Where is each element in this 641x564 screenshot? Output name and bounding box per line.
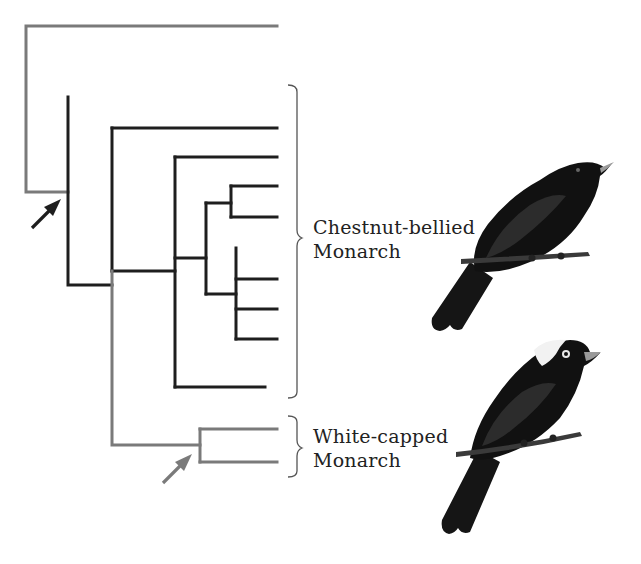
chestnut-bellied-clade-branches — [68, 97, 277, 387]
outgroup-branch — [26, 26, 277, 192]
white-capped-clade-branches — [112, 271, 277, 462]
white-capped-monarch-illustration — [442, 340, 601, 534]
chestnut-bellied-label: Chestnut-bellied Monarch — [313, 215, 475, 263]
chestnut-bellied-label-line2: Monarch — [313, 239, 475, 263]
white-capped-label-line2: Monarch — [313, 448, 448, 472]
black-arrow-icon — [32, 199, 61, 228]
white-capped-bracket — [288, 416, 302, 477]
white-capped-label-line1: White-capped — [313, 424, 448, 448]
phylogenetic-tree — [0, 0, 641, 564]
white-capped-label: White-capped Monarch — [313, 424, 448, 472]
chestnut-bellied-label-line1: Chestnut-bellied — [313, 215, 475, 239]
grey-arrow-icon — [163, 454, 192, 483]
chestnut-bellied-bracket — [288, 85, 302, 398]
phylogenetic-figure: Chestnut-bellied Monarch White-capped Mo… — [0, 0, 641, 564]
